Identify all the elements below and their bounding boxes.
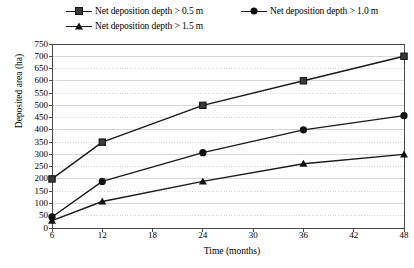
chart-figure: Net deposition depth > 0.5 m Net deposit… xyxy=(0,0,414,268)
plot-canvas xyxy=(0,0,414,268)
plot-area: Deposited area (ha) Time (months) 050100… xyxy=(0,0,414,268)
